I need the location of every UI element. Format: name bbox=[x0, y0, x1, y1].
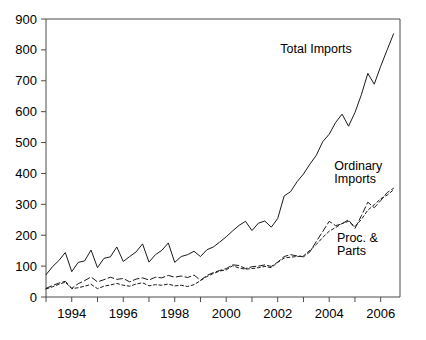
x-tick-label: 1996 bbox=[109, 306, 138, 321]
y-tick-label: 100 bbox=[15, 259, 37, 274]
series-annotation-label: Parts bbox=[337, 244, 366, 258]
y-tick-label: 0 bbox=[30, 290, 37, 305]
y-tick-label: 800 bbox=[15, 42, 37, 57]
x-tick-label: 2006 bbox=[366, 306, 395, 321]
series-annotation-label: Total Imports bbox=[280, 42, 352, 56]
x-tick-label: 1998 bbox=[160, 306, 189, 321]
imports-line-chart: 0100200300400500600700800900 19941996199… bbox=[0, 0, 426, 340]
chart-container: 0100200300400500600700800900 19941996199… bbox=[0, 0, 426, 340]
y-tick-label: 700 bbox=[15, 73, 37, 88]
series-annotation-label: Ordinary bbox=[334, 159, 383, 173]
x-tick-label: 2002 bbox=[263, 306, 292, 321]
x-tick-label: 1994 bbox=[57, 306, 86, 321]
y-tick-label: 400 bbox=[15, 166, 37, 181]
x-tick-label: 2000 bbox=[212, 306, 241, 321]
y-tick-label: 500 bbox=[15, 135, 37, 150]
y-tick-label: 600 bbox=[15, 104, 37, 119]
series-annotation-label: Proc. & bbox=[337, 231, 379, 245]
series-annotation-label: Imports bbox=[334, 172, 376, 186]
y-tick-label: 900 bbox=[15, 12, 37, 27]
y-tick-label: 200 bbox=[15, 228, 37, 243]
y-tick-label: 300 bbox=[15, 197, 37, 212]
x-tick-label: 2004 bbox=[315, 306, 344, 321]
